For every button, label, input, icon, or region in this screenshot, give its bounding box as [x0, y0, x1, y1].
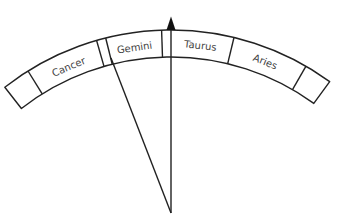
sign-label-cancer: Cancer — [50, 54, 88, 78]
divider-cancer-gemini-a — [97, 41, 104, 67]
zodiac-dial-diagram: Cancer Gemini Taurus Aries — [0, 0, 344, 222]
sign-label-gemini: Gemini — [116, 40, 153, 56]
divider-right-end — [293, 66, 307, 89]
pointer-diagonal-line — [111, 58, 171, 213]
divider-gemini-taurus-a — [162, 30, 163, 57]
sign-label-aries: Aries — [252, 52, 279, 72]
sign-label-taurus: Taurus — [183, 38, 218, 52]
divider-taurus-aries — [228, 38, 234, 64]
triangle-marker-icon — [167, 17, 176, 31]
divider-left-end — [28, 71, 42, 94]
